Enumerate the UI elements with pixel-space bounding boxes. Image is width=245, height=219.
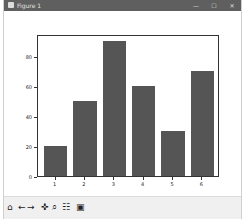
back-icon[interactable]: ←	[18, 202, 26, 212]
bar-5	[161, 131, 184, 176]
y-tick-label: 20	[12, 144, 32, 150]
bar-3	[103, 41, 126, 176]
x-tick-label: 1	[50, 181, 60, 187]
close-button[interactable]: ✕	[225, 0, 239, 11]
navigation-toolbar: ⌂←→✜⌕☷▣	[4, 196, 241, 219]
bar-6	[191, 71, 214, 176]
home-icon[interactable]: ⌂	[7, 202, 13, 212]
x-tick-label: 2	[79, 181, 89, 187]
pan-icon[interactable]: ✜	[41, 202, 49, 212]
x-tick-label: 3	[108, 181, 118, 187]
zoom-icon[interactable]: ⌕	[52, 202, 57, 212]
y-tick-label: 80	[12, 54, 32, 60]
x-tick-label: 5	[167, 181, 177, 187]
bar-4	[132, 86, 155, 176]
plot-axes	[37, 35, 219, 177]
y-tick-label: 60	[12, 84, 32, 90]
bar-1	[44, 146, 67, 176]
y-tick-mark	[34, 177, 37, 178]
x-tick-label: 4	[138, 181, 148, 187]
window-title: Figure 1	[17, 1, 41, 10]
forward-icon[interactable]: →	[27, 202, 35, 212]
y-tick-label: 0	[12, 174, 32, 180]
x-tick-mark	[143, 177, 144, 180]
bar-2	[73, 101, 96, 176]
y-tick-mark	[34, 87, 37, 88]
x-tick-mark	[55, 177, 56, 180]
save-icon[interactable]: ▣	[76, 202, 85, 212]
y-tick-label: 40	[12, 114, 32, 120]
minimize-button[interactable]: —	[189, 0, 203, 11]
x-tick-mark	[201, 177, 202, 180]
maximize-button[interactable]: ☐	[207, 0, 221, 11]
x-tick-mark	[113, 177, 114, 180]
y-tick-mark	[34, 117, 37, 118]
y-tick-mark	[34, 147, 37, 148]
title-bar[interactable]: Figure 1 — ☐ ✕	[4, 0, 241, 11]
configure-subplots-icon[interactable]: ☷	[62, 202, 70, 212]
y-tick-mark	[34, 57, 37, 58]
figure-canvas[interactable]: 020406080123456	[4, 11, 241, 195]
figure-window: Figure 1 — ☐ ✕ 020406080123456 ⌂←→✜⌕☷▣	[3, 0, 242, 219]
x-tick-mark	[84, 177, 85, 180]
x-tick-label: 6	[196, 181, 206, 187]
x-tick-mark	[172, 177, 173, 180]
app-icon	[8, 2, 14, 8]
